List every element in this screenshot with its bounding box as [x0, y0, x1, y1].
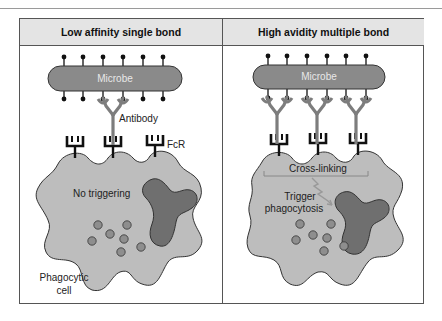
- diagram-artwork: Microbe Antibody FcR No triggering Phago…: [0, 0, 442, 321]
- microbe-label-left: Microbe: [97, 73, 133, 84]
- trigger-label-line2: phagocytosis: [265, 203, 323, 214]
- fcr-label: FcR: [167, 139, 185, 150]
- antigen-top-row-left: [62, 55, 166, 66]
- left-microbe-group: Microbe: [48, 55, 182, 102]
- no-triggering-label: No triggering: [73, 188, 130, 199]
- antibody-label: Antibody: [119, 113, 158, 124]
- antigen-top-row-right: [266, 54, 369, 65]
- microbe-label-right: Microbe: [301, 71, 337, 82]
- right-microbe-group: Microbe: [253, 54, 385, 101]
- antibodies-right: [262, 97, 371, 144]
- phagocytic-cell-label-line2: cell: [56, 285, 71, 296]
- phagocytic-cell-left: [36, 151, 202, 290]
- phagocytic-cell-label-line1: Phagocytic: [40, 272, 89, 283]
- cross-linking-label: Cross-linking: [289, 163, 347, 174]
- trigger-label-line1: Trigger: [284, 191, 316, 202]
- antigen-bottom-row-left: [62, 90, 166, 101]
